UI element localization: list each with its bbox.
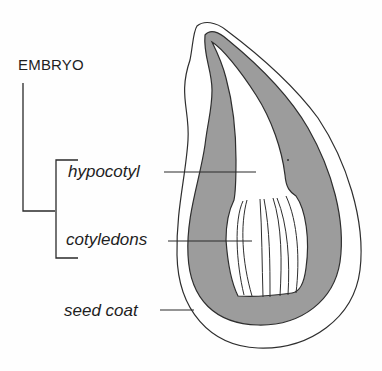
cotyledons-label: cotyledons xyxy=(66,230,147,250)
speck xyxy=(287,159,289,161)
embryo-label: EMBRYO xyxy=(18,56,84,73)
seed-diagram: EMBRYO hypocotyl cotyledons seed coat xyxy=(0,0,382,371)
hypocotyl-label: hypocotyl xyxy=(68,162,140,182)
seed-coat-label: seed coat xyxy=(64,301,138,321)
